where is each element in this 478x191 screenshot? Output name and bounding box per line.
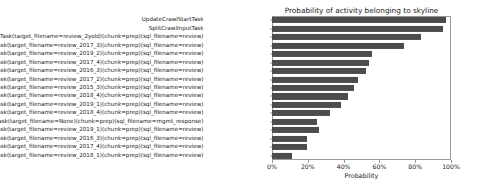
bar-track: [272, 58, 451, 66]
bar-row: ConvertDumpTask(target_filename=review_2…: [0, 41, 478, 49]
bar-chart-figure: Probability of activity belonging to sky…: [0, 0, 478, 191]
y-axis-tick-label: ConvertDumpTask(target_filename=review_2…: [0, 128, 206, 134]
bar-track: [272, 50, 451, 58]
bar-track: [272, 67, 451, 75]
y-axis-tick-label: DumpTask(target_filename=review_2017_4)(…: [0, 60, 206, 66]
bar-row: DumpTask(target_filename=review_2019_1)(…: [0, 101, 478, 109]
bar-track: [272, 118, 451, 126]
bar-track: [272, 41, 451, 49]
bar-row: DumpTask(target_filename=review_2018_4)(…: [0, 92, 478, 100]
bar: [272, 85, 354, 91]
bar-row: SplitCrawlInputTask: [0, 24, 478, 32]
bar-row: ConvertDumpTask(target_filename=review_2…: [0, 109, 478, 117]
bar: [272, 26, 443, 32]
bar-row: ConvertDumpTask(target_filename=review_2…: [0, 126, 478, 134]
bar-row: DumpTask(target_filename=review_2015_3)(…: [0, 84, 478, 92]
bar: [272, 43, 404, 49]
bar-row: UpdateCrawlStartTask: [0, 16, 478, 24]
y-axis-tick-label: ConvertDumpTask(target_filename=review_2…: [0, 51, 206, 57]
bar: [272, 76, 358, 82]
bar-track: [272, 92, 451, 100]
bar-track: [272, 84, 451, 92]
chart-title: Probability of activity belonging to sky…: [272, 6, 451, 15]
x-axis-tick-label: 100%: [442, 163, 460, 170]
bar: [272, 119, 317, 125]
bar: [272, 127, 319, 133]
bar: [272, 93, 348, 99]
bar-track: [272, 101, 451, 109]
bar-row: DumpTask(target_filename=review_2yold)(c…: [0, 33, 478, 41]
x-axis-tick-label: 60%: [373, 163, 387, 170]
y-axis-tick-label: SplitCrawlInputTask: [149, 26, 206, 32]
bar-track: [272, 143, 451, 151]
y-axis-tick-label: ConvertDumpTask(target_filename=review_2…: [0, 144, 206, 150]
bar: [272, 153, 292, 159]
x-axis-tick-label: 0%: [267, 163, 277, 170]
bar-row: DumpTask(target_filename=review_2016_3)(…: [0, 67, 478, 75]
bar-track: [272, 126, 451, 134]
bar: [272, 34, 421, 40]
bar: [272, 51, 372, 57]
bar-row: DumpTask(target_filename=review_2017_4)(…: [0, 58, 478, 66]
y-axis-tick-label: ConvertDumpTask(target_filename=review_2…: [0, 153, 206, 159]
bar-track: [272, 33, 451, 41]
bar-row: ConvertDumpTask(target_filename=review_2…: [0, 135, 478, 143]
y-axis-tick-label: UpdateCrawlStartTask: [142, 17, 206, 23]
x-axis-tick-label: 80%: [408, 163, 422, 170]
bar-row: ConvertDumpTask(target_filename=review_2…: [0, 50, 478, 58]
bar: [272, 68, 366, 74]
bar-track: [272, 135, 451, 143]
y-axis-tick-label: DumpTask(target_filename=review_2017_2)(…: [0, 77, 206, 83]
bar: [272, 110, 330, 116]
bar-row: ConvertDumpTask(target_filename=review_2…: [0, 152, 478, 160]
bar: [272, 102, 341, 108]
x-axis-ticks: 0%20%40%60%80%100%: [272, 160, 451, 172]
bar: [272, 136, 307, 142]
bar-track: [272, 75, 451, 83]
bar-row: ConvertDumpTask(target_filename=review_2…: [0, 143, 478, 151]
bar-track: [272, 16, 451, 24]
x-axis-tick-label: 20%: [301, 163, 315, 170]
bar: [272, 144, 307, 150]
bar-row: DumpTask(target_filename=review_2017_2)(…: [0, 75, 478, 83]
bar-track: [272, 24, 451, 32]
bar: [272, 17, 446, 23]
bar-row: ConvertDumpTask(target_filename=None)(ch…: [0, 118, 478, 126]
bar-track: [272, 109, 451, 117]
bar-track: [272, 152, 451, 160]
bar-rows: UpdateCrawlStartTaskSplitCrawlInputTaskD…: [0, 16, 478, 160]
x-axis-label: Probability: [272, 172, 451, 180]
y-axis-tick-label: DumpTask(target_filename=review_2016_3)(…: [0, 68, 206, 74]
y-axis-tick-label: ConvertDumpTask(target_filename=review_2…: [0, 111, 206, 117]
y-axis-tick-label: DumpTask(target_filename=review_2yold)(c…: [0, 34, 206, 40]
y-axis-tick-label: ConvertDumpTask(target_filename=None)(ch…: [0, 119, 206, 125]
bar: [272, 60, 369, 66]
y-axis-tick-label: DumpTask(target_filename=review_2019_1)(…: [0, 102, 206, 108]
y-axis-tick-label: DumpTask(target_filename=review_2015_3)(…: [0, 85, 206, 91]
x-axis-tick-label: 40%: [337, 163, 351, 170]
y-axis-tick-label: ConvertDumpTask(target_filename=review_2…: [0, 43, 206, 49]
y-axis-tick-label: ConvertDumpTask(target_filename=review_2…: [0, 136, 206, 142]
y-axis-tick-label: DumpTask(target_filename=review_2018_4)(…: [0, 94, 206, 100]
